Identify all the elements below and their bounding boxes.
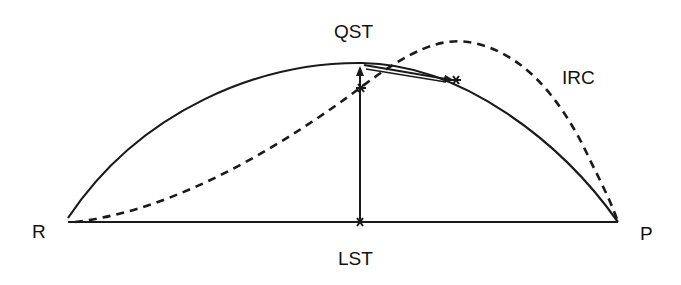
qst-arc [68, 63, 618, 222]
qst-to-ts-arrow [364, 65, 452, 80]
label-lst: LST [338, 248, 373, 269]
label-irc: IRC [562, 67, 595, 88]
label-r: R [32, 221, 46, 242]
label-qst: QST [334, 21, 373, 42]
label-p: P [640, 223, 653, 244]
reaction-path-diagram: R P LST QST IRC [0, 0, 681, 285]
irc-curve [75, 41, 618, 222]
